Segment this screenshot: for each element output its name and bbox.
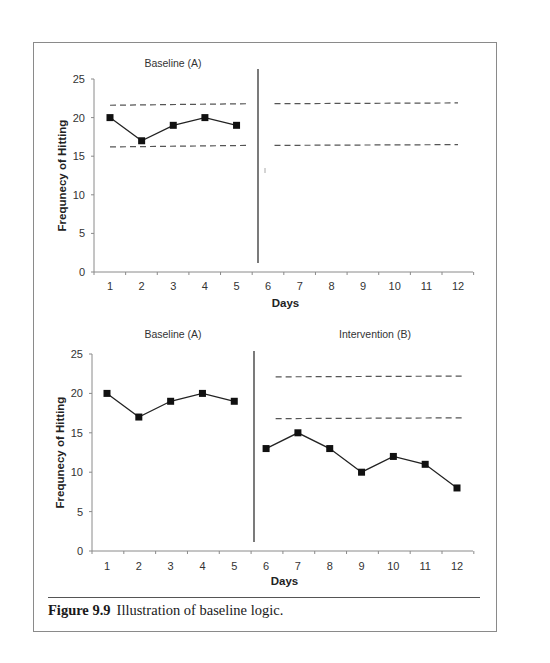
x-tick-label: 10 — [389, 280, 401, 292]
y-tick-label: 25 — [73, 73, 85, 85]
figure-label: Figure 9.9 — [48, 602, 111, 618]
caption-separator — [48, 597, 480, 598]
x-tick-label: 4 — [202, 280, 208, 292]
data-point-marker — [233, 122, 240, 129]
x-tick-label: 8 — [327, 560, 333, 572]
y-tick-label: 5 — [79, 227, 85, 239]
y-axis-title: Frequnecy of Hitting — [54, 397, 66, 509]
x-tick-label: 6 — [265, 280, 271, 292]
data-point-marker — [358, 469, 365, 476]
y-axis-title: Frequnecy of Hitting — [56, 120, 68, 232]
reference-line-dashed — [110, 145, 249, 147]
y-tick-label: 20 — [73, 112, 85, 124]
x-tick-label: 2 — [139, 280, 145, 292]
data-point-marker — [138, 137, 145, 144]
y-tick-label: 5 — [77, 506, 83, 518]
data-point-marker — [167, 398, 174, 405]
y-tick-label: 25 — [71, 348, 83, 360]
x-tick-label: 1 — [107, 280, 113, 292]
y-tick-label: 0 — [77, 545, 83, 557]
reference-line-dashed — [275, 103, 458, 104]
data-point-marker — [135, 414, 142, 421]
reference-line-dashed — [276, 418, 464, 419]
x-tick-label: 2 — [136, 560, 142, 572]
x-tick-label: 9 — [360, 280, 366, 292]
x-axis-title: Days — [271, 575, 299, 587]
series-line — [266, 433, 457, 488]
data-point-marker — [170, 122, 177, 129]
data-point-marker — [201, 114, 208, 121]
data-point-marker — [104, 390, 111, 397]
data-point-marker — [263, 445, 270, 452]
x-tick-label: 6 — [263, 560, 269, 572]
x-tick-label: 11 — [421, 280, 432, 292]
reference-line-dashed — [276, 376, 464, 377]
data-point-marker — [326, 445, 333, 452]
y-tick-label: 20 — [71, 387, 83, 399]
x-tick-label: 1 — [104, 560, 110, 572]
y-tick-label: 15 — [71, 427, 83, 439]
x-tick-label: 9 — [358, 560, 364, 572]
data-point-marker — [390, 453, 397, 460]
data-point-marker — [454, 484, 461, 491]
data-point-marker — [294, 429, 301, 436]
data-point-marker — [199, 390, 206, 397]
x-tick-label: 8 — [328, 280, 334, 292]
x-axis-title: Days — [272, 297, 300, 309]
series-line — [110, 118, 237, 141]
y-tick-label: 15 — [73, 150, 85, 162]
phase-label: Intervention (B) — [339, 328, 411, 340]
x-tick-label: 12 — [452, 280, 464, 292]
x-tick-label: 7 — [295, 560, 301, 572]
phase-label: Baseline (A) — [144, 57, 201, 69]
phase-label: Baseline (A) — [144, 328, 201, 340]
reference-line-dashed — [110, 104, 249, 106]
reference-line-dashed — [275, 145, 458, 146]
figure-caption-text: Illustration of baseline logic. — [117, 602, 284, 618]
series-line — [107, 393, 234, 417]
x-tick-label: 5 — [231, 560, 237, 572]
data-point-marker — [422, 461, 429, 468]
y-tick-label: 10 — [71, 466, 83, 478]
y-tick-label: 10 — [73, 189, 85, 201]
figure-caption: Figure 9.9Illustration of baseline logic… — [48, 602, 283, 619]
x-tick-label: 12 — [451, 560, 463, 572]
x-tick-label: 5 — [233, 280, 239, 292]
x-tick-label: 3 — [170, 280, 176, 292]
x-tick-label: 7 — [297, 280, 303, 292]
data-point-marker — [107, 114, 114, 121]
x-tick-label: 3 — [168, 560, 174, 572]
x-tick-label: 10 — [387, 560, 399, 572]
x-tick-label: 11 — [419, 560, 430, 572]
figure-charts: 0510152025123456789101112DaysFrequnecy o… — [0, 0, 550, 663]
x-tick-label: 4 — [199, 560, 205, 572]
y-tick-label: 0 — [79, 266, 85, 278]
data-point-marker — [231, 398, 238, 405]
